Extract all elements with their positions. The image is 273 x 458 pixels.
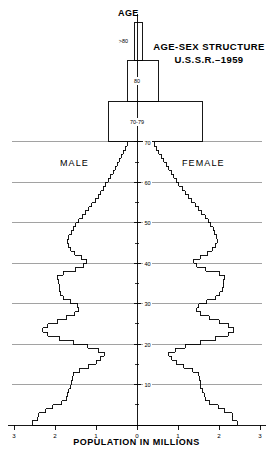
axis-lines-group <box>8 14 266 425</box>
age-tick-label-30: 30 <box>145 301 151 307</box>
age-band-label-7079: 70-79 <box>130 119 144 125</box>
population-pyramid-figure: 10203040506070 3210123 70-7980>80 AGE AG… <box>0 0 273 458</box>
age-axis-title: AGE <box>118 8 139 18</box>
pyramid-plot-area: 10203040506070 3210123 70-7980>80 <box>0 0 273 458</box>
figure-title-line2: U.S.S.R.–1959 <box>150 53 268 66</box>
age-tick-label-70: 70 <box>145 140 151 146</box>
figure-title: AGE-SEX STRUCTURE U.S.S.R.–1959 <box>150 40 268 66</box>
population-axis-title: POPULATION IN MILLIONS <box>0 437 273 447</box>
age-band-label-80: 80 <box>134 78 140 84</box>
age-tick-label-60: 60 <box>145 180 151 186</box>
age-tick-label-20: 20 <box>145 342 151 348</box>
age-tick-label-50: 50 <box>145 220 151 226</box>
female-side-label: FEMALE <box>182 158 225 168</box>
age-tick-labels-group: 10203040506070 <box>143 138 152 389</box>
age-tick-label-40: 40 <box>145 261 151 267</box>
pyramid-outline-female <box>137 142 237 425</box>
age-tick-label-10: 10 <box>145 382 151 388</box>
age-band-box-7079 <box>108 101 202 142</box>
age-band-box-80 <box>135 22 143 60</box>
age-band-label-80: >80 <box>119 38 128 44</box>
male-side-label: MALE <box>60 158 89 168</box>
pyramid-outline-male <box>32 142 137 425</box>
figure-title-line1: AGE-SEX STRUCTURE <box>150 40 268 53</box>
